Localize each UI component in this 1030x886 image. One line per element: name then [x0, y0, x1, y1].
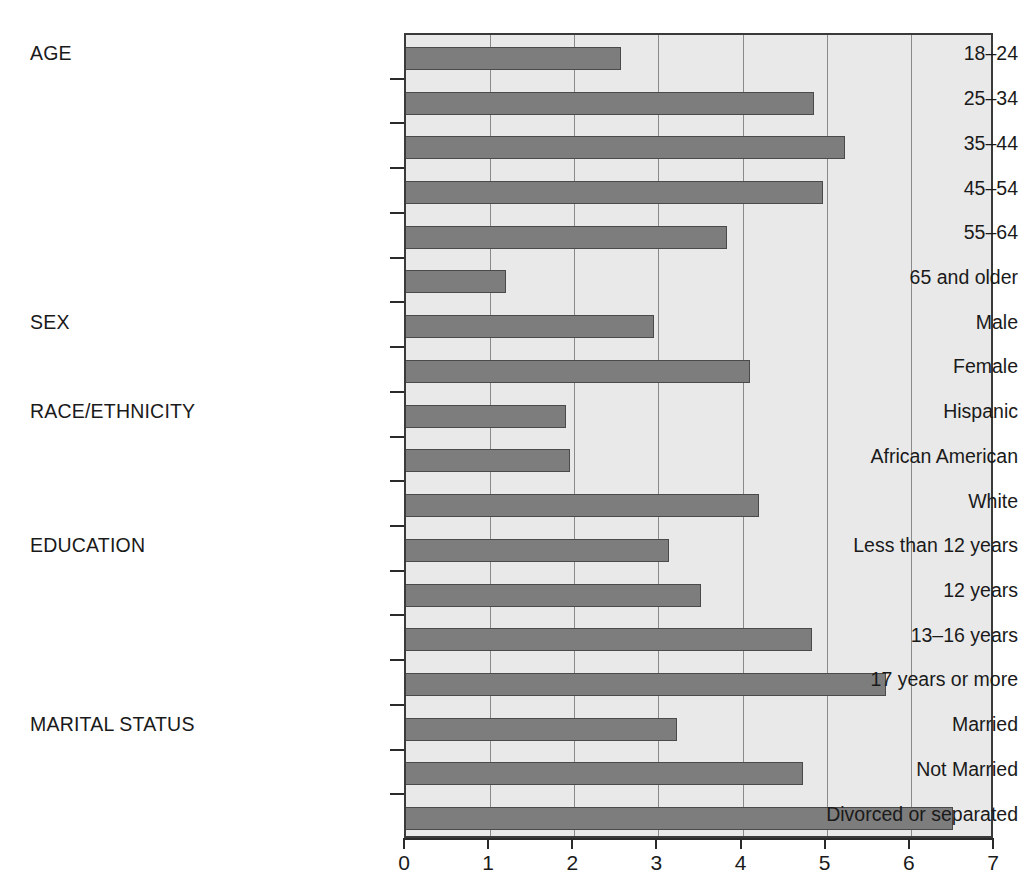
x-axis-tick — [824, 838, 826, 849]
y-axis-tick — [390, 391, 404, 393]
group-label-education: EDUCATION — [30, 534, 145, 557]
y-axis-tick — [390, 436, 404, 438]
x-axis-tick — [487, 838, 489, 849]
bar-chart-figure: 18–2425–3435–4445–5455–6465 and olderMal… — [0, 0, 1030, 886]
y-axis-tick — [390, 614, 404, 616]
x-axis-tick — [571, 838, 573, 849]
category-label: African American — [0, 445, 1030, 468]
category-label: Not Married — [0, 758, 1030, 781]
x-axis-tick — [403, 838, 405, 849]
y-axis-tick — [390, 480, 404, 482]
y-axis-tick — [390, 749, 404, 751]
category-label: 25–34 — [0, 87, 1030, 110]
group-label-race-ethnicity: RACE/ETHNICITY — [30, 400, 195, 423]
x-axis-tick — [992, 838, 994, 849]
y-axis-tick — [390, 570, 404, 572]
y-axis-tick — [390, 212, 404, 214]
x-axis-tick-label: 6 — [903, 851, 915, 875]
y-axis-tick — [390, 704, 404, 706]
category-label: Female — [0, 355, 1030, 378]
category-label: 17 years or more — [0, 668, 1030, 691]
category-label: 12 years — [0, 579, 1030, 602]
group-label-age: AGE — [30, 42, 72, 65]
x-axis-tick-label: 1 — [482, 851, 494, 875]
y-axis-tick — [390, 793, 404, 795]
y-axis-tick — [390, 167, 404, 169]
y-axis-tick — [390, 301, 404, 303]
x-axis-tick-label: 0 — [398, 851, 410, 875]
y-axis-tick — [390, 346, 404, 348]
x-axis-line — [404, 838, 993, 840]
group-label-sex: SEX — [30, 311, 70, 334]
x-axis-tick-label: 4 — [735, 851, 747, 875]
y-axis-tick — [390, 78, 404, 80]
category-label: White — [0, 490, 1030, 513]
category-label: 55–64 — [0, 221, 1030, 244]
x-axis-tick — [740, 838, 742, 849]
category-label: 45–54 — [0, 177, 1030, 200]
category-label: Male — [0, 311, 1030, 334]
category-label: Divorced or separated — [0, 803, 1030, 826]
group-label-marital-status: MARITAL STATUS — [30, 713, 195, 736]
category-label: 65 and older — [0, 266, 1030, 289]
y-axis-tick — [390, 257, 404, 259]
x-axis-tick — [908, 838, 910, 849]
category-label: Less than 12 years — [0, 534, 1030, 557]
x-axis-tick-label: 5 — [819, 851, 831, 875]
category-label: 35–44 — [0, 132, 1030, 155]
x-axis-tick-label: 7 — [987, 851, 999, 875]
y-axis-tick — [390, 122, 404, 124]
x-axis-tick-label: 2 — [566, 851, 578, 875]
y-axis-tick — [390, 659, 404, 661]
y-axis-tick — [390, 525, 404, 527]
category-label: 18–24 — [0, 42, 1030, 65]
x-axis-tick — [655, 838, 657, 849]
category-label: 13–16 years — [0, 624, 1030, 647]
x-axis-tick-label: 3 — [651, 851, 663, 875]
